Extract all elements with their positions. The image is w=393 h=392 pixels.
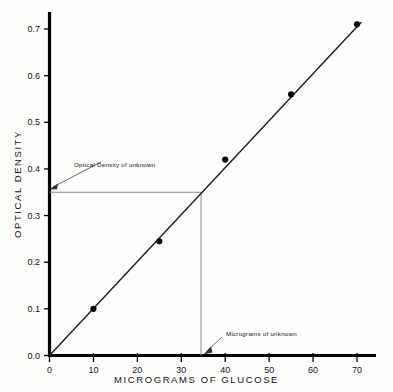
y-tick-label: 0.4 — [27, 164, 40, 174]
micrograms-arrowhead — [204, 347, 213, 355]
x-tick-label: 60 — [308, 365, 318, 375]
glucose-standard-curve-chart: 0.00.10.20.30.40.50.60.7 010203040506070… — [0, 0, 393, 392]
x-tick-label: 10 — [88, 365, 98, 375]
best-fit-line — [50, 22, 362, 355]
x-axis-title: MICROGRAMS OF GLUCOSE — [114, 374, 279, 385]
x-tick-label: 0 — [47, 365, 52, 375]
y-tick-label: 0.0 — [27, 351, 40, 361]
y-tick-label: 0.6 — [27, 71, 40, 81]
data-point — [156, 238, 162, 244]
y-axis-title: OPTICAL DENSITY — [12, 130, 23, 238]
y-tick-label: 0.2 — [27, 257, 40, 267]
data-point — [222, 157, 228, 163]
y-tick-label: 0.1 — [27, 304, 40, 314]
x-tick-label: 70 — [352, 365, 362, 375]
annotation-arrows — [50, 162, 223, 355]
data-point — [90, 306, 96, 312]
y-axis-ticks: 0.00.10.20.30.40.50.60.7 — [27, 24, 51, 361]
y-tick-label: 0.3 — [27, 211, 40, 221]
y-tick-label: 0.7 — [27, 24, 40, 34]
y-tick-label: 0.5 — [27, 117, 40, 127]
annotation-optical-density-label: Optical Density of unknown — [74, 161, 156, 168]
annotation-micrograms-label: Micrograms of unknown — [226, 330, 297, 337]
chart-figure: 0.00.10.20.30.40.50.60.7 010203040506070… — [0, 0, 393, 392]
data-point — [354, 21, 360, 27]
data-point — [288, 91, 294, 97]
